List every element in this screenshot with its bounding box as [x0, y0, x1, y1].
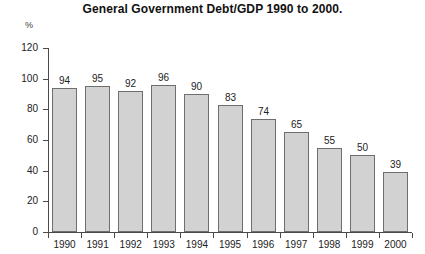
- x-axis-line: [48, 232, 412, 233]
- bar-value-label: 83: [212, 92, 249, 103]
- bar: [251, 119, 276, 232]
- bar-value-label: 95: [79, 73, 116, 84]
- bar: [317, 148, 342, 232]
- x-axis-tick: [213, 233, 214, 238]
- x-axis-tick: [114, 233, 115, 238]
- bar: [383, 172, 408, 232]
- y-axis-tick: [43, 171, 48, 172]
- y-axis-tick-label: 60: [0, 135, 38, 145]
- x-axis-tick: [81, 233, 82, 238]
- bar-value-label: 65: [278, 119, 315, 130]
- x-axis-tick: [180, 233, 181, 238]
- x-axis-tick-label: 2000: [375, 239, 415, 250]
- plot-area: 020406080100120 9495929690837465555039 1…: [0, 0, 425, 254]
- bar-value-label: 50: [344, 142, 381, 153]
- y-axis-tick: [43, 140, 48, 141]
- bar: [151, 85, 176, 232]
- y-axis-tick-label: 20: [0, 196, 38, 206]
- y-axis-tick: [43, 48, 48, 49]
- bar: [218, 105, 243, 232]
- x-axis-tick: [379, 233, 380, 238]
- bar: [52, 88, 77, 232]
- bar-value-label: 92: [112, 78, 149, 89]
- bar-value-label: 96: [145, 72, 182, 83]
- bar-value-label: 74: [245, 106, 282, 117]
- bar-value-label: 90: [178, 81, 215, 92]
- x-axis-tick: [313, 233, 314, 238]
- bar-value-label: 94: [46, 75, 83, 86]
- bar-chart: General Government Debt/GDP 1990 to 2000…: [0, 0, 425, 254]
- y-axis-tick-label: 120: [0, 43, 38, 53]
- bar: [85, 86, 110, 232]
- x-axis-tick: [48, 233, 49, 238]
- x-axis-tick: [346, 233, 347, 238]
- y-axis-tick: [43, 109, 48, 110]
- y-axis-tick-label: 40: [0, 166, 38, 176]
- x-axis-tick: [280, 233, 281, 238]
- x-axis-tick: [412, 233, 413, 238]
- bar-value-label: 55: [311, 135, 348, 146]
- bar: [118, 91, 143, 232]
- bar-value-label: 39: [377, 159, 414, 170]
- y-axis-tick-label: 80: [0, 104, 38, 114]
- y-axis-tick: [43, 201, 48, 202]
- y-axis-tick-label: 0: [0, 227, 38, 237]
- x-axis-tick: [147, 233, 148, 238]
- y-axis-tick-label: 100: [0, 74, 38, 84]
- bar: [184, 94, 209, 232]
- bar: [284, 132, 309, 232]
- bar: [350, 155, 375, 232]
- x-axis-tick: [247, 233, 248, 238]
